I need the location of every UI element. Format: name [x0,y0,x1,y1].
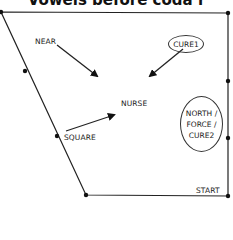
label-nurse: NURSE [121,99,147,108]
near-arrow [57,45,97,76]
label-cure1: CURE1 [168,35,204,53]
square-arrow [66,115,114,131]
label-north-force-cure2: NORTH / FORCE / CURE2 [180,96,223,152]
label-force: FORCE / [187,119,217,130]
label-north: NORTH / [186,108,217,119]
label-cure2: CURE2 [189,130,214,141]
label-near: NEAR [35,37,56,46]
label-square: SQUARE [64,133,96,142]
cure1-arrow [150,49,183,76]
label-start: START [196,186,220,195]
